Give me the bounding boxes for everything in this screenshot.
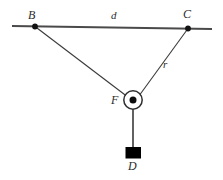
vertex-dot-B [32, 24, 38, 30]
geometry-diagram: B C F D d r [0, 0, 223, 180]
vertex-dot-C [185, 26, 191, 32]
pivot-center-dot-icon [130, 97, 137, 104]
point-label-D: D [128, 160, 137, 172]
point-label-C: C [183, 8, 191, 20]
filled-square-icon [126, 147, 142, 159]
point-label-F: F [111, 94, 118, 106]
point-label-B: B [28, 9, 35, 21]
measure-label-d: d [111, 10, 117, 21]
diagram-canvas [0, 0, 223, 180]
top-line-BC [12, 26, 212, 29]
measure-label-r: r [163, 59, 167, 70]
segment-BF [35, 27, 127, 97]
